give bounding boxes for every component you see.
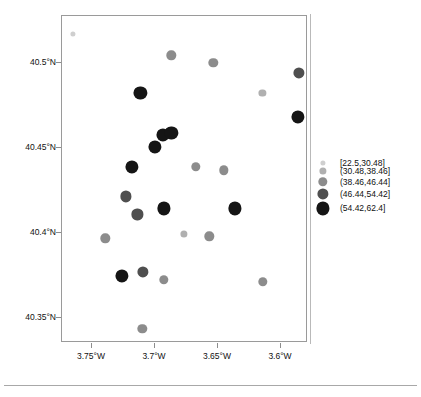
- ytick-label-1: 40.45°N: [10, 142, 56, 152]
- data-point: [258, 277, 267, 286]
- data-point: [291, 110, 304, 123]
- xtick-mark-1: [154, 343, 155, 348]
- data-point: [120, 191, 131, 202]
- data-point: [219, 166, 228, 175]
- data-point: [125, 160, 138, 173]
- legend-item[interactable]: (30.48,38.46]: [323, 166, 421, 175]
- data-point: [181, 231, 188, 238]
- xtick-mark-2: [217, 343, 218, 348]
- data-point: [70, 32, 75, 37]
- legend-item[interactable]: (54.42,62.4]: [323, 201, 421, 216]
- legend-label: (38.46,46.44]: [340, 177, 390, 187]
- data-point: [159, 275, 168, 284]
- footer-divider: [4, 385, 417, 386]
- legend-swatch-icon: [317, 188, 328, 199]
- data-point: [138, 266, 149, 277]
- ytick-label-3: 40.35°N: [10, 312, 56, 322]
- data-point: [157, 202, 170, 215]
- ytick-label-0: 40.5°N: [10, 57, 56, 67]
- xtick-label-1: 3.7°W: [142, 351, 165, 361]
- data-point: [205, 232, 214, 241]
- xtick-mark-3: [280, 343, 281, 348]
- legend-item[interactable]: (38.46,46.44]: [323, 176, 421, 188]
- data-point: [138, 324, 147, 333]
- legend-swatch-icon: [320, 160, 325, 165]
- data-point: [191, 162, 200, 171]
- data-points-layer: [62, 16, 306, 341]
- data-point: [132, 209, 143, 220]
- xtick-label-3: 3.6°W: [268, 351, 291, 361]
- data-point: [148, 140, 161, 153]
- data-point: [134, 86, 147, 99]
- plot-area: [61, 15, 307, 342]
- legend-item[interactable]: (46.44,54.42]: [323, 187, 421, 200]
- legend-entries: [22.5,30.48](30.48,38.46](38.46,46.44](4…: [323, 159, 421, 216]
- legend-label: (46.44,54.42]: [340, 189, 390, 199]
- data-point: [167, 50, 176, 59]
- legend-swatch-icon: [318, 177, 327, 186]
- legend-label: (54.42,62.4]: [340, 203, 385, 213]
- legend-swatch-icon: [319, 167, 326, 174]
- data-point: [115, 270, 128, 283]
- legend-label: (30.48,38.46]: [340, 166, 390, 176]
- data-point: [165, 126, 178, 139]
- xtick-label-0: 3.75°W: [77, 351, 105, 361]
- xtick-label-2: 3.65°W: [203, 351, 231, 361]
- xtick-mark-0: [91, 343, 92, 348]
- scatter-map-figure: 40.5°N 40.45°N 40.4°N 40.35°N 3.75°W 3.7…: [0, 0, 421, 397]
- data-point: [228, 202, 241, 215]
- legend-panel: [22.5,30.48](30.48,38.46](38.46,46.44](4…: [310, 14, 421, 344]
- data-point: [208, 58, 217, 67]
- data-point: [259, 89, 266, 96]
- ytick-label-2: 40.4°N: [10, 227, 56, 237]
- data-point: [293, 67, 304, 78]
- legend-swatch-icon: [316, 202, 329, 215]
- data-point: [101, 233, 110, 242]
